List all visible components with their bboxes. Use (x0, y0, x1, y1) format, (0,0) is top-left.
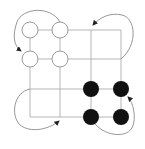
arrow-top-right (93, 14, 133, 59)
arrow-bottom-left (15, 89, 59, 130)
white-piece (22, 51, 38, 67)
black-pieces (83, 81, 129, 125)
white-piece (22, 22, 38, 38)
grid-diagram (0, 0, 145, 149)
black-piece (113, 109, 129, 125)
black-piece (83, 81, 99, 97)
black-piece (113, 81, 129, 97)
grid-lines (30, 30, 121, 117)
white-piece (52, 51, 68, 67)
black-piece (83, 109, 99, 125)
white-pieces (22, 22, 68, 67)
white-piece (52, 22, 68, 38)
